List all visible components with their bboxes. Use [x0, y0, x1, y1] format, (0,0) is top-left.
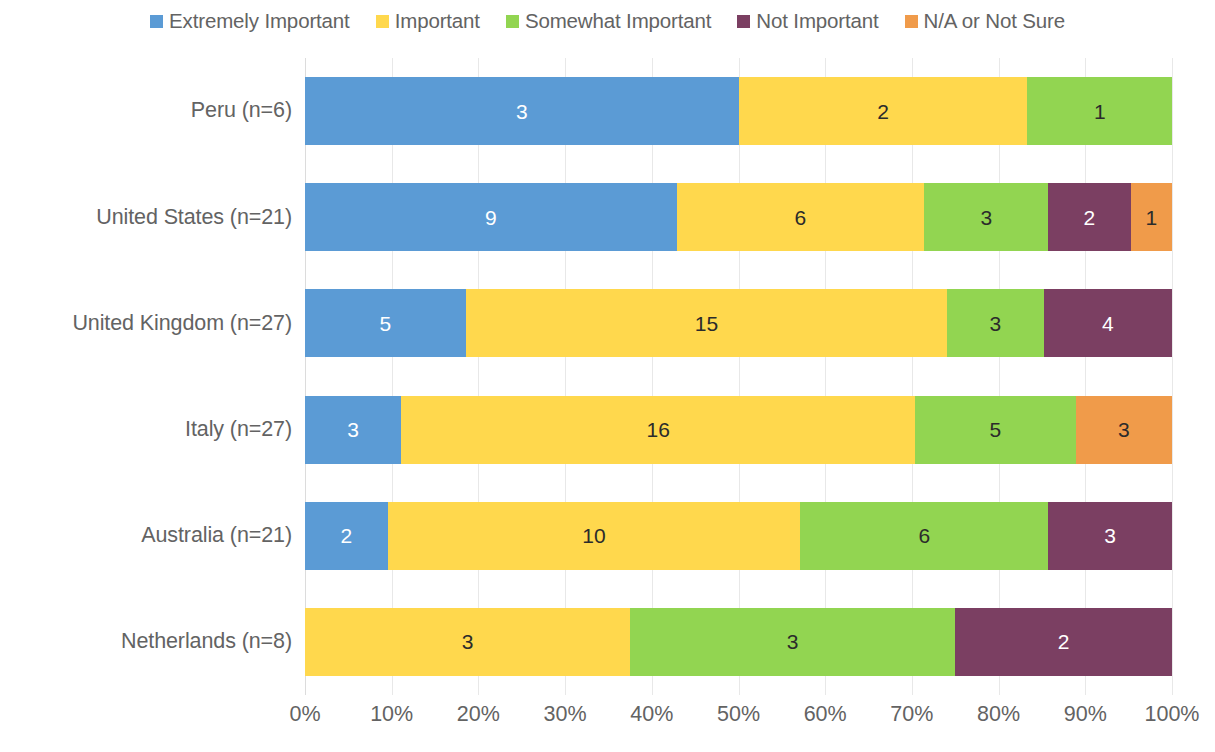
legend-item-label: N/A or Not Sure: [924, 11, 1065, 32]
bar-segment[interactable]: 2: [955, 608, 1172, 676]
x-axis-tick-label: 0%: [289, 704, 320, 726]
bar-segment-value-label: 3: [787, 631, 799, 652]
bar-segment-value-label: 3: [516, 101, 528, 122]
x-axis-tick-label: 20%: [457, 704, 500, 726]
bar-segment-value-label: 2: [340, 525, 352, 546]
bar-segment-value-label: 3: [462, 631, 474, 652]
y-axis-label: Australia (n=21): [0, 502, 292, 570]
bar-segment-value-label: 4: [1102, 313, 1114, 334]
y-axis-label: Italy (n=27): [0, 396, 292, 464]
x-axis-tick-label: 50%: [717, 704, 760, 726]
legend-swatch-icon: [376, 15, 389, 28]
bar-segment-value-label: 3: [990, 313, 1002, 334]
y-axis-category-labels: Peru (n=6)United States (n=21)United Kin…: [0, 58, 292, 695]
bar-segment[interactable]: 6: [800, 502, 1048, 570]
legend-item[interactable]: N/A or Not Sure: [905, 11, 1065, 32]
y-axis-label: United States (n=21): [0, 183, 292, 251]
bar-segment-value-label: 16: [647, 419, 670, 440]
bar-segment-value-label: 15: [695, 313, 718, 334]
legend-item-label: Important: [395, 11, 480, 32]
bar-rows: 32196321515343165321063332: [305, 58, 1172, 695]
bar-segment[interactable]: 5: [915, 396, 1076, 464]
bar-segment[interactable]: 9: [305, 183, 677, 251]
y-axis-label: Peru (n=6): [0, 77, 292, 145]
legend-swatch-icon: [150, 15, 163, 28]
x-axis-tick-label: 30%: [544, 704, 587, 726]
bar-segment-value-label: 5: [379, 313, 391, 334]
bar-row: 21063: [305, 502, 1172, 570]
bar-segment[interactable]: 10: [388, 502, 801, 570]
bar-segment-value-label: 3: [1118, 419, 1130, 440]
bar-segment-value-label: 2: [1058, 631, 1070, 652]
bar-segment-value-label: 2: [877, 101, 889, 122]
bar-segment[interactable]: 15: [466, 289, 948, 357]
legend-swatch-icon: [737, 15, 750, 28]
bar-segment[interactable]: 3: [924, 183, 1048, 251]
legend-item-label: Extremely Important: [169, 11, 350, 32]
bar-segment-value-label: 10: [582, 525, 605, 546]
bar-segment[interactable]: 1: [1131, 183, 1172, 251]
legend-swatch-icon: [905, 15, 918, 28]
legend-item-label: Not Important: [756, 11, 878, 32]
legend-item[interactable]: Not Important: [737, 11, 878, 32]
bar-segment-value-label: 2: [1084, 207, 1096, 228]
x-axis-tick-label: 90%: [1064, 704, 1107, 726]
y-axis-label: United Kingdom (n=27): [0, 289, 292, 357]
x-axis-tick-label: 70%: [890, 704, 933, 726]
bar-segment[interactable]: 6: [677, 183, 925, 251]
bar-segment-value-label: 3: [347, 419, 359, 440]
legend-item-label: Somewhat Important: [525, 11, 711, 32]
chart-legend: Extremely ImportantImportantSomewhat Imp…: [0, 4, 1215, 38]
bar-row: 96321: [305, 183, 1172, 251]
bar-segment-value-label: 6: [918, 525, 930, 546]
x-axis-tick-label: 80%: [977, 704, 1020, 726]
legend-item[interactable]: Important: [376, 11, 480, 32]
bar-row: 31653: [305, 396, 1172, 464]
plot-area: 32196321515343165321063332: [305, 58, 1172, 695]
bar-segment[interactable]: 3: [305, 396, 401, 464]
bar-segment-value-label: 6: [795, 207, 807, 228]
bar-segment[interactable]: 4: [1044, 289, 1172, 357]
stacked-bar-chart: Extremely ImportantImportantSomewhat Imp…: [0, 0, 1215, 752]
x-axis-tick-labels: 0%10%20%30%40%50%60%70%80%90%100%: [305, 700, 1172, 740]
legend-swatch-icon: [506, 15, 519, 28]
bar-segment-value-label: 5: [990, 419, 1002, 440]
x-axis-tick-label: 10%: [370, 704, 413, 726]
legend-item[interactable]: Extremely Important: [150, 11, 350, 32]
bar-segment[interactable]: 2: [1048, 183, 1131, 251]
legend-item[interactable]: Somewhat Important: [506, 11, 711, 32]
bar-segment[interactable]: 3: [305, 77, 739, 145]
bar-segment[interactable]: 3: [1076, 396, 1172, 464]
bar-segment[interactable]: 3: [1048, 502, 1172, 570]
y-axis-label: Netherlands (n=8): [0, 608, 292, 676]
x-axis-tick-label: 40%: [630, 704, 673, 726]
bar-segment[interactable]: 2: [305, 502, 388, 570]
bar-row: 321: [305, 77, 1172, 145]
bar-segment-value-label: 1: [1094, 101, 1106, 122]
x-axis-tick-label: 100%: [1145, 704, 1200, 726]
bar-segment[interactable]: 2: [739, 77, 1028, 145]
bar-segment[interactable]: 3: [305, 608, 630, 676]
gridline: [1172, 58, 1173, 695]
bar-segment-value-label: 9: [485, 207, 497, 228]
bar-segment[interactable]: 3: [630, 608, 955, 676]
x-axis-tick-label: 60%: [804, 704, 847, 726]
bar-row: 51534: [305, 289, 1172, 357]
bar-segment-value-label: 3: [980, 207, 992, 228]
bar-segment-value-label: 1: [1145, 207, 1157, 228]
bar-row: 332: [305, 608, 1172, 676]
bar-segment-value-label: 3: [1104, 525, 1116, 546]
bar-segment[interactable]: 1: [1027, 77, 1172, 145]
bar-segment[interactable]: 5: [305, 289, 466, 357]
bar-segment[interactable]: 3: [947, 289, 1043, 357]
bar-segment[interactable]: 16: [401, 396, 915, 464]
